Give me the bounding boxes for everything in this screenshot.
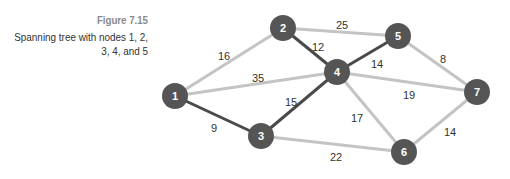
edge-weight-label: 12: [312, 41, 324, 53]
node-7: 7: [464, 79, 490, 105]
node-5: 5: [385, 23, 411, 49]
node-label: 4: [334, 66, 341, 78]
node-label: 6: [401, 146, 407, 158]
edge-1-2: [175, 28, 283, 96]
edges-layer: [175, 28, 477, 152]
node-label: 5: [395, 30, 401, 42]
node-label: 1: [172, 90, 178, 102]
node-3: 3: [248, 123, 274, 149]
edge-weight-label: 15: [285, 96, 297, 108]
node-label: 3: [258, 130, 264, 142]
edge-weight-label: 19: [403, 89, 415, 101]
node-4: 4: [324, 59, 350, 85]
edge-weight-label: 16: [218, 50, 230, 62]
edge-weight-label: 25: [336, 19, 348, 31]
edge-3-6: [261, 136, 404, 152]
node-label: 2: [280, 22, 286, 34]
edge-1-3: [175, 96, 261, 136]
edge-weight-label: 14: [371, 58, 383, 70]
node-1: 1: [162, 83, 188, 109]
edge-4-6: [337, 72, 404, 152]
spanning-tree-graph: 1635912251522141917814 1234567: [0, 0, 510, 179]
edge-weight-label: 14: [444, 126, 456, 138]
edge-7-6: [404, 92, 477, 152]
edge-weight-label: 35: [252, 72, 264, 84]
edge-weight-label: 22: [330, 151, 342, 163]
node-label: 7: [474, 86, 480, 98]
edge-weight-label: 17: [351, 112, 363, 124]
node-2: 2: [270, 15, 296, 41]
node-6: 6: [391, 139, 417, 165]
edge-weight-label: 8: [440, 53, 446, 65]
edge-weight-label: 9: [211, 122, 217, 134]
